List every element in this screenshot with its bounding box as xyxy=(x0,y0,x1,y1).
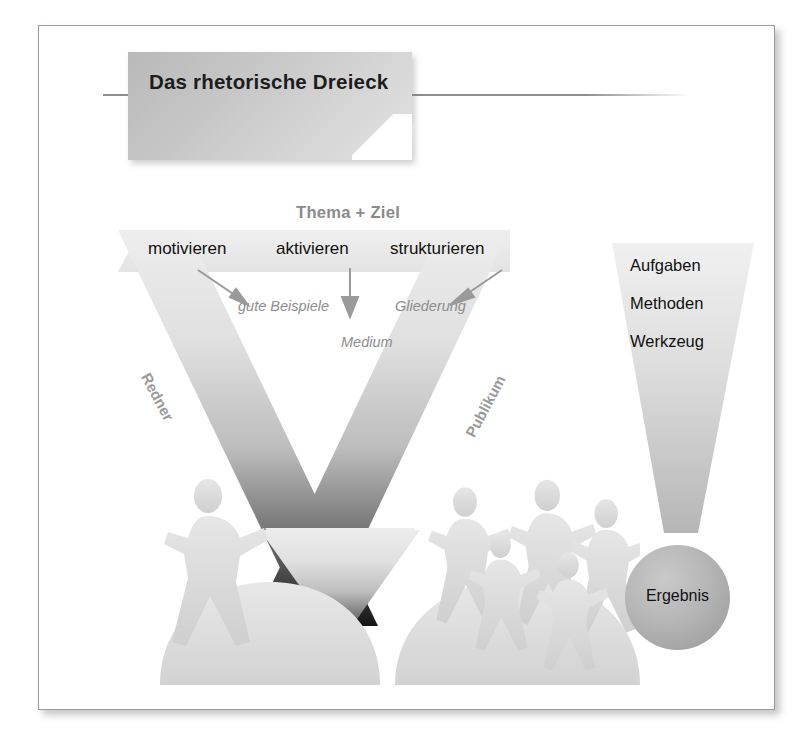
people-group xyxy=(140,470,640,685)
label-motivieren: motivieren xyxy=(148,239,226,259)
title-card xyxy=(128,52,412,160)
diagram-page: Das rhetorische Dreieck xyxy=(0,0,810,747)
label-aktivieren: aktivieren xyxy=(276,239,349,259)
label-aufgaben: Aufgaben xyxy=(630,256,701,275)
label-strukturieren: strukturieren xyxy=(390,239,484,259)
apex-label: Thema + Ziel xyxy=(296,203,400,222)
label-methoden: Methoden xyxy=(630,294,703,313)
title-card-fold-icon xyxy=(352,114,412,160)
label-werkzeug: Werkzeug xyxy=(630,332,704,351)
funnel-shape xyxy=(598,243,768,533)
label-ergebnis: Ergebnis xyxy=(625,587,730,605)
connector-arrows xyxy=(190,265,520,345)
page-title: Das rhetorische Dreieck xyxy=(149,70,388,94)
